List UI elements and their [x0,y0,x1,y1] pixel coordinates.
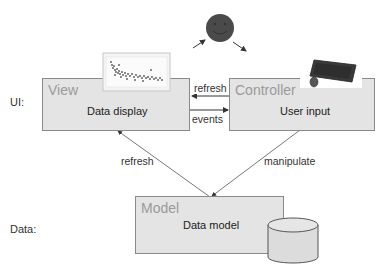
diagram-icons [0,0,385,276]
keyboard-mouse-icon [300,55,362,88]
smiley-face-icon [206,14,234,42]
scatter-chart-thumbnail-icon [103,53,170,91]
database-cylinder-icon [268,218,318,263]
